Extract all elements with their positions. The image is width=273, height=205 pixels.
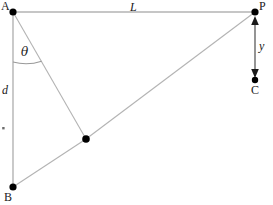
y-dimension-arrowhead-up (251, 16, 259, 25)
point-dot-m (82, 135, 90, 143)
point-dot-p (251, 8, 258, 15)
point-label-b: B (4, 191, 12, 203)
point-dot-a (9, 8, 16, 15)
y-dimension-arrowhead-down (251, 69, 259, 78)
point-label-p: P (259, 0, 266, 12)
segment-a-m (13, 12, 86, 139)
tick-mark (2, 127, 4, 129)
label-angle-theta: θ (21, 46, 28, 58)
label-length-l: L (130, 1, 137, 13)
geometry-diagram: A P B C L d y θ (0, 0, 273, 205)
segment-b-m (13, 139, 86, 187)
diagram-canvas (0, 0, 273, 205)
label-height-y: y (259, 40, 264, 52)
point-label-a: A (1, 0, 10, 12)
segment-m-p (86, 12, 255, 139)
point-label-c: C (251, 84, 259, 96)
label-distance-d: d (2, 84, 8, 96)
angle-arc-theta (13, 61, 42, 64)
